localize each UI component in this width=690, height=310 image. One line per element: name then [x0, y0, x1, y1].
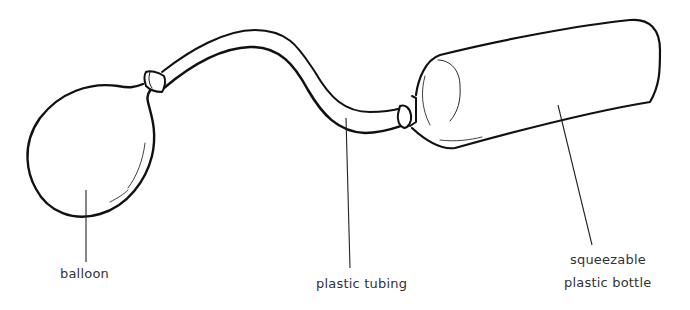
balloon-label: balloon: [60, 262, 109, 285]
squeezable-bottle-drawing: [410, 20, 660, 148]
tubing-leader-line: [346, 118, 350, 268]
bottle-label-line2: plastic bottle: [564, 271, 651, 294]
plastic-tubing-label: plastic tubing: [316, 272, 407, 295]
balloon-drawing: [27, 71, 165, 217]
bottle-leader-line: [558, 105, 592, 245]
leader-lines: [86, 105, 592, 268]
bottle-label-line1: squeezable: [570, 248, 646, 271]
plastic-tubing-drawing: [162, 30, 411, 133]
